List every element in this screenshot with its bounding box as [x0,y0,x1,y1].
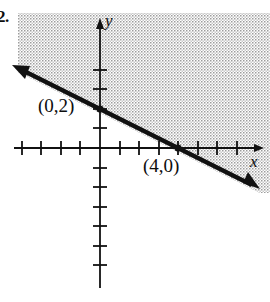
graph-canvas [0,0,270,302]
x-axis-label: x [250,153,258,170]
y-intercept-label: (0,2) [38,96,74,115]
point-4-0-marker [174,144,181,151]
line-left-arrow [12,65,30,79]
inequality-graph-figure: 2. y x (0,2) (4,0) [0,0,270,302]
problem-number: 2. [0,8,9,25]
y-axis-label: y [105,12,113,29]
point-0-2-marker [96,105,103,112]
x-intercept-label: (4,0) [143,156,179,175]
